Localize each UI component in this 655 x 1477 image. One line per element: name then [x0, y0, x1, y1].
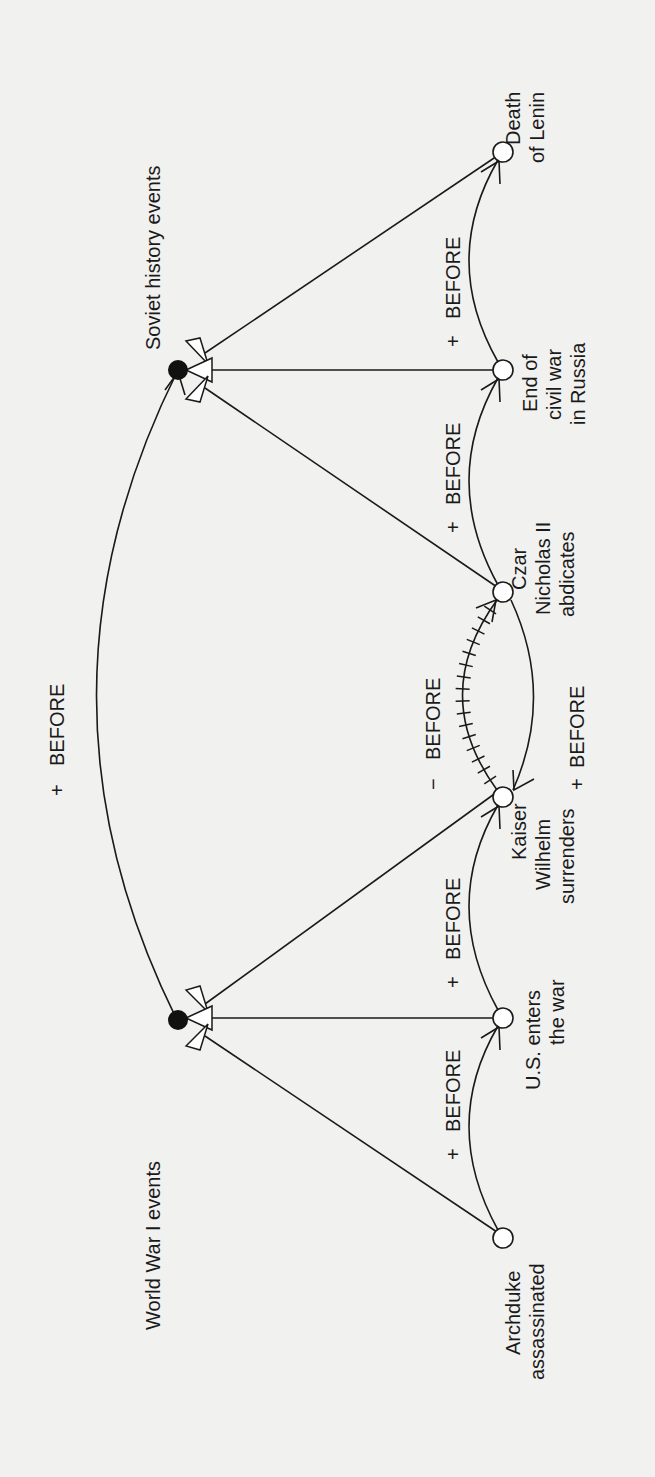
hatch-mark: [472, 756, 485, 762]
isa-arrowhead-icon: [186, 986, 208, 1012]
edge-czar-before-kaiser: [511, 600, 534, 790]
event-node-civilwar[interactable]: [493, 360, 513, 380]
hatch-mark: [478, 617, 490, 624]
event-label-kaiser: Kaiser Wilhelm surrenders: [508, 798, 578, 904]
event-node-archduke[interactable]: [493, 1228, 513, 1248]
isa-arrowhead-icon: [186, 358, 212, 382]
edge-wwi-before-soviet: [97, 370, 179, 1022]
relation-label: BEFORE: [442, 237, 464, 319]
hatch-mark: [478, 766, 490, 773]
relation-label: BEFORE: [442, 423, 464, 505]
hatch-mark: [457, 676, 471, 678]
relation-sign: +: [46, 784, 68, 796]
relation-sign: +: [442, 335, 464, 347]
hub-node-soviet[interactable]: [168, 360, 188, 380]
hatch-mark: [484, 776, 496, 784]
isa-arrowhead-icon: [186, 1006, 212, 1030]
relation-label: BEFORE: [422, 678, 444, 760]
edge-archduke-before-us: [469, 1026, 498, 1230]
isa-arrowhead-icon: [186, 376, 208, 402]
event-label-archduke: Archduke assassinated: [502, 1263, 548, 1380]
edge-kaiser-neg-before-czar: [463, 600, 498, 790]
edge-us-before-kaiser: [469, 805, 498, 1010]
relation-sign-negative: −: [422, 778, 444, 790]
edge-civilwar-before-lenin: [469, 160, 498, 362]
event-node-us[interactable]: [493, 1008, 513, 1028]
hatch-mark: [457, 712, 471, 714]
hatch-mark: [456, 689, 470, 690]
relation-sign: +: [442, 976, 464, 988]
isa-arrowhead-icon: [186, 1024, 208, 1050]
hub-node-wwi[interactable]: [168, 1010, 188, 1030]
event-label-civilwar: End of civil war in Russia: [519, 342, 589, 425]
relation-sign: +: [442, 521, 464, 533]
edge-czar-before-civilwar: [469, 378, 498, 585]
hub-label-wwi: World War I events: [142, 1161, 164, 1330]
isa-arrowhead-icon: [186, 338, 208, 364]
relation-label: BEFORE: [442, 878, 464, 960]
event-label-czar: Czar Nicholas II abdicates: [508, 516, 578, 617]
relation-label: BEFORE: [442, 1050, 464, 1132]
relation-sign: +: [566, 778, 588, 790]
event-label-us: U.S. enters the war: [522, 979, 568, 1090]
hatch-mark: [456, 701, 470, 702]
arrowhead-icon: [513, 770, 534, 790]
relation-sign: +: [442, 1148, 464, 1160]
relation-label: BEFORE: [46, 684, 68, 766]
hatch-mark: [472, 628, 485, 634]
relation-label: BEFORE: [566, 686, 588, 768]
hub-label-soviet: Soviet history events: [142, 165, 164, 350]
isa-before-diagram: Soviet history events World War I events…: [0, 0, 655, 1477]
